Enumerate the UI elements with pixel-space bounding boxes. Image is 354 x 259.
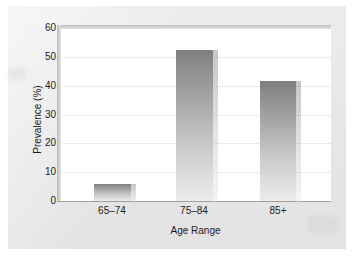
plot-area [60,28,331,201]
x-axis-tick-labels: 65–74 75–84 85+ [60,206,331,222]
plot-top-rule [60,25,331,29]
y-tick-50: 50 [45,52,56,62]
y-tick-60: 60 [45,23,56,33]
bar-75-84[interactable] [176,50,213,201]
x-axis-title: Age Range [60,225,331,236]
y-tick-20: 20 [45,138,56,148]
scan-smudge [8,68,26,80]
y-tick-10: 10 [45,167,56,177]
x-axis-spine [57,201,331,202]
y-tick-30: 30 [45,110,56,120]
bar-shadow-65-74 [131,184,136,205]
y-axis-spine [57,25,61,201]
y-tick-40: 40 [45,81,56,91]
x-tick-75-84: 75–84 [180,206,208,216]
x-tick-85-plus: 85+ [270,206,287,216]
bar-85-plus[interactable] [260,81,296,201]
chart-panel: 60 50 40 30 20 10 0 Prevalence (%) [8,6,346,249]
bar-65-74[interactable] [94,184,131,201]
bar-shadow-75-84 [213,50,218,205]
y-axis-title: Prevalence (%) [32,60,43,180]
y-tick-0: 0 [50,196,56,206]
x-tick-65-74: 65–74 [98,206,126,216]
bar-shadow-85-plus [296,81,301,205]
chart-figure: 60 50 40 30 20 10 0 Prevalence (%) [0,0,354,259]
